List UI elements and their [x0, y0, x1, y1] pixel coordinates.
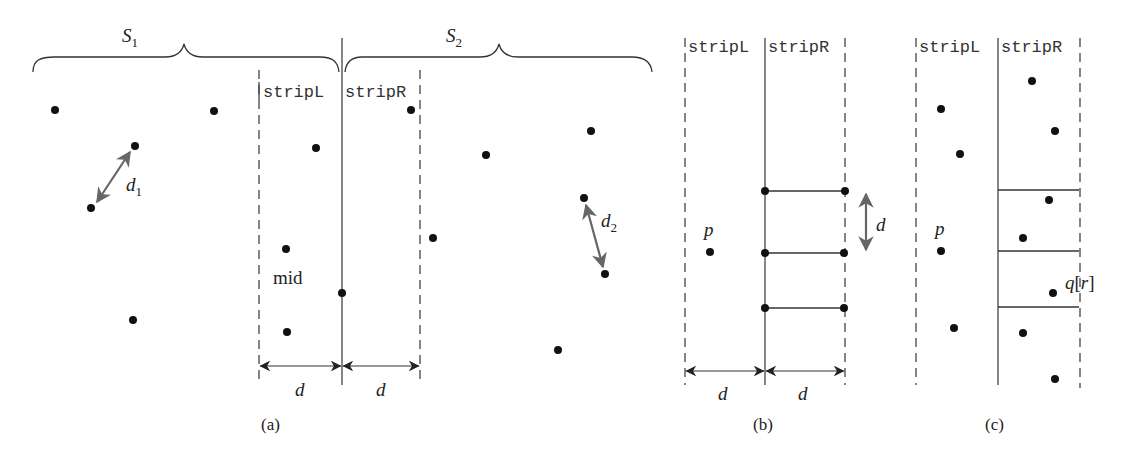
strip-right-label-c: stripR: [1001, 38, 1062, 57]
strip-left-label-b: stripL: [688, 38, 749, 57]
p-label-b: p: [702, 219, 714, 240]
vertical-d-label: d: [876, 214, 886, 235]
strip-right-label-b: stripR: [768, 38, 829, 57]
q-r-label: q[r]: [1065, 272, 1095, 293]
s1-label: S1: [122, 25, 138, 50]
d-left-label-b: d: [718, 383, 728, 404]
d-right-label-b: d: [798, 383, 808, 404]
s2-label: S2: [446, 25, 462, 50]
p-label-c: p: [933, 218, 945, 239]
strip-left-label: stripL: [263, 83, 324, 102]
caption-b: (b): [753, 415, 773, 434]
d-by-2d-rectangle: [765, 191, 845, 308]
strip-right-label: stripR: [345, 83, 406, 102]
caption-c: (c): [985, 415, 1004, 434]
d-right-label: d: [376, 379, 386, 400]
points-a: [51, 106, 609, 354]
d1-label: d1: [126, 174, 142, 199]
s2-brace: [345, 44, 652, 72]
point-p-b: [706, 248, 714, 256]
d2-label: d2: [601, 210, 617, 235]
panel-a: S1 S2 stripL stripR: [33, 25, 652, 434]
strip-left-label-c: stripL: [919, 38, 980, 57]
mid-label: mid: [273, 267, 303, 288]
caption-a: (a): [261, 415, 280, 434]
s1-brace: [33, 44, 339, 72]
closest-pair-diagram: S1 S2 stripL stripR: [0, 0, 1126, 460]
corner-points-b: [761, 187, 849, 312]
panel-b: stripL stripR p d d d (b): [685, 38, 886, 434]
panel-c: stripL stripR p q[r] (c): [916, 38, 1095, 434]
d-left-label: d: [295, 379, 305, 400]
